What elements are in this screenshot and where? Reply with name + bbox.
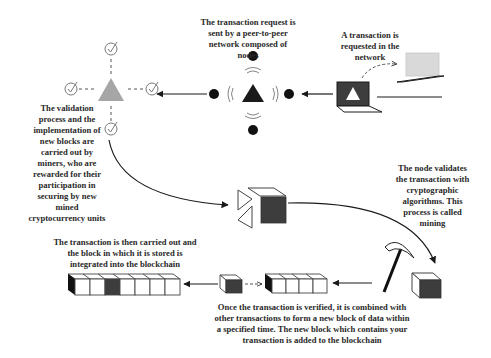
blockchain-transaction-diagram: The transaction request is sent by a pee… xyxy=(0,0,491,358)
label-step-request: A transaction is requested in the networ… xyxy=(325,30,415,63)
pickaxe-icon xyxy=(384,242,414,292)
transaction-cube-icon xyxy=(220,275,242,293)
label-step-broadcast: The transaction request is sent by a pee… xyxy=(168,17,328,61)
arrow-validators-to-block xyxy=(109,140,228,205)
label-step-mining: The node validates the transaction with … xyxy=(380,163,485,229)
blockchain-icon xyxy=(68,274,180,295)
requesting-laptop-icon xyxy=(337,82,382,112)
mining-cube-icon xyxy=(412,273,441,298)
check-icon-top xyxy=(105,42,117,55)
label-step-validation: The validation process and the implement… xyxy=(22,103,112,224)
request-dashed-arrow xyxy=(362,64,397,78)
check-icon-left xyxy=(65,82,77,95)
check-icon-right xyxy=(146,82,158,95)
new-block-icon xyxy=(265,274,327,293)
label-step-block: Once the transaction is verified, it is … xyxy=(196,302,428,346)
verified-block-icon xyxy=(238,188,286,228)
broadcast-node-icon xyxy=(209,51,294,135)
label-step-blockchain: The transaction is then carried out and … xyxy=(40,237,210,270)
